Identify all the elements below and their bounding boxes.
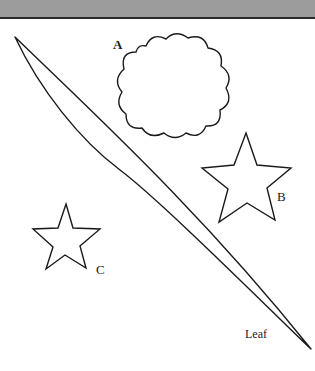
cloud-label: A <box>113 38 122 51</box>
leaf-label: Leaf <box>245 328 267 340</box>
shapes-diagram <box>0 0 315 371</box>
star-b-label: B <box>277 190 286 203</box>
star-b-shape <box>202 133 291 222</box>
star-c-shape <box>33 204 100 269</box>
leaf-shape <box>15 37 311 349</box>
cloud-shape <box>117 34 229 138</box>
star-c-label: C <box>96 263 105 276</box>
